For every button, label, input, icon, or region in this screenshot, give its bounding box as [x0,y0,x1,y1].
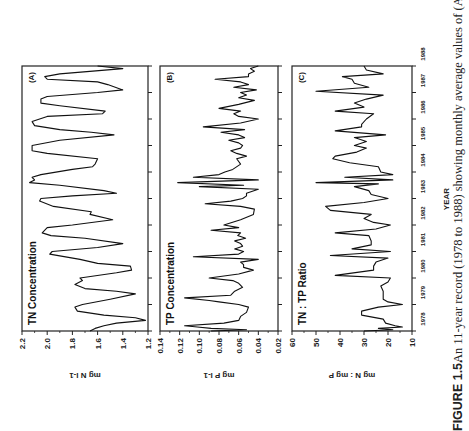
panel-title: TP Concentration [165,242,176,325]
caption-label: FIGURE 1.5. [451,359,465,431]
y-tick-label: 20 [384,337,393,346]
x-tick-label: 1982 [420,206,426,220]
figure-canvas: 1.21.41.61.82.02.2mg N l-1TN Concentrati… [0,0,469,431]
y-tick-label: 1.8 [68,337,77,349]
x-tick-label: 1980 [420,259,426,273]
panel-c: 102030405060mg N : mg P19781979198019811… [288,47,426,380]
x-tick-label: 1986 [420,100,426,114]
panel-b: 0.020.040.060.080.100.120.14mg P l-1TP C… [156,66,283,380]
plot-frame [160,66,278,331]
y-tick-label: 2.2 [18,337,27,349]
y-axis-label: mg N l-1 [69,371,101,380]
y-tick-label: 2.0 [43,337,52,349]
y-axis-label: mg N : mg P [328,371,375,380]
caption: FIGURE 1.5. An 11-year record (1978 to 1… [451,0,465,431]
y-tick-label: 40 [336,337,345,346]
x-tick-label: 1979 [420,285,426,299]
panel-title: TN : TP Ratio [297,262,308,325]
figure-rotated-stage: 1.21.41.61.82.02.2mg N l-1TN Concentrati… [0,0,469,431]
y-tick-label: 1.2 [144,337,153,349]
x-tick-label: 1981 [420,232,426,246]
y-tick-label: 50 [312,337,321,346]
y-tick-label: 0.12 [176,337,185,353]
y-tick-label: 0.14 [156,337,165,353]
x-tick-label: 1987 [420,73,426,87]
y-axis-label: mg P l-1 [203,371,235,380]
x-tick-label: 1985 [420,126,426,140]
x-tick-label: 1988 [420,47,426,61]
x-tick-label: 1984 [420,153,426,167]
y-tick-label: 10 [408,337,417,346]
y-tick-label: 1.4 [119,337,128,349]
x-tick-label: 1978 [420,312,426,326]
panel-label: (A) [27,72,36,83]
y-tick-label: 0.04 [254,337,263,353]
data-series-line [178,66,259,331]
caption-text: An 11-year record (1978 to 1988) showing… [451,0,465,363]
x-tick-label: 1983 [420,179,426,193]
panel-label: (B) [165,72,174,83]
y-tick-label: 1.6 [94,337,103,349]
y-tick-label: 0.08 [215,337,224,353]
panel-label: (C) [297,72,306,83]
x-axis-title: YEAR [442,188,451,210]
panel-title: TN Concentration [27,241,38,325]
y-tick-label: 0.02 [274,337,283,353]
y-tick-label: 60 [288,337,297,346]
panel-a: 1.21.41.61.82.02.2mg N l-1TN Concentrati… [18,66,153,380]
data-series-line [30,66,146,331]
y-tick-label: 0.10 [195,337,204,353]
y-tick-label: 30 [360,337,369,346]
plot-frame [292,66,412,331]
y-tick-label: 0.06 [235,337,244,353]
data-series-line [316,66,402,331]
